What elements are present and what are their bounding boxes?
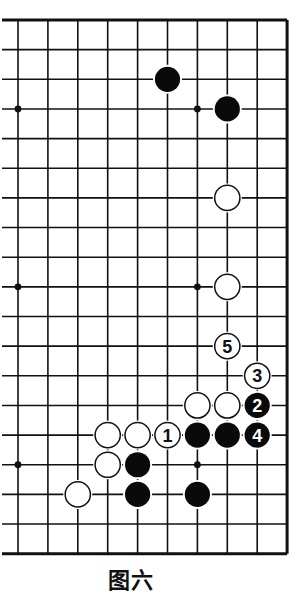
star-point-icon (15, 106, 22, 113)
white-stone: 3 (243, 361, 272, 390)
stone-icon (95, 423, 120, 448)
star-point-icon (15, 283, 22, 290)
star-point-icon (194, 106, 201, 113)
black-stone (123, 450, 152, 479)
stone-icon (215, 96, 240, 121)
stone-icon (215, 185, 240, 210)
stone-icon (125, 482, 150, 507)
figure-caption: 图六 (0, 562, 262, 594)
stone-icon (185, 482, 210, 507)
white-stone: 1 (153, 421, 182, 450)
black-stone (123, 480, 152, 509)
stone-icon (215, 423, 240, 448)
move-number: 5 (222, 337, 232, 357)
stone-icon (125, 452, 150, 477)
stone-icon (155, 67, 180, 92)
white-stone (183, 391, 212, 420)
stone-icon (65, 482, 90, 507)
white-stone (63, 480, 92, 509)
black-stone (213, 421, 242, 450)
white-stone (213, 183, 242, 212)
stone-icon (185, 393, 210, 418)
stone-icon (215, 393, 240, 418)
white-stone (93, 421, 122, 450)
white-stone (93, 450, 122, 479)
move-number: 1 (162, 426, 172, 446)
stone-icon (125, 423, 150, 448)
white-stone (213, 391, 242, 420)
go-board: 53214 (0, 0, 302, 560)
black-stone (183, 421, 212, 450)
move-number: 2 (252, 396, 262, 416)
star-point-icon (194, 461, 201, 468)
white-stone (213, 272, 242, 301)
black-stone (153, 65, 182, 94)
black-stone: 4 (243, 421, 272, 450)
move-number: 3 (252, 366, 262, 386)
move-number: 4 (252, 426, 262, 446)
star-point-icon (194, 283, 201, 290)
star-point-icon (15, 461, 22, 468)
white-stone: 5 (213, 332, 242, 361)
stone-icon (215, 274, 240, 299)
black-stone (213, 94, 242, 123)
stone-icon (95, 452, 120, 477)
black-stone (183, 480, 212, 509)
black-stone: 2 (243, 391, 272, 420)
stone-icon (185, 423, 210, 448)
white-stone (123, 421, 152, 450)
